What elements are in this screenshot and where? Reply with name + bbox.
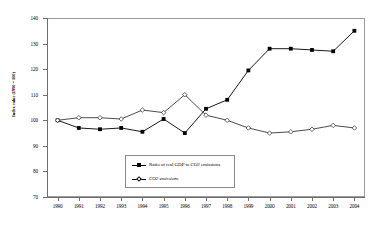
y-tick-label-130: 130 (31, 41, 38, 47)
legend-marker-filled-square-icon (132, 162, 146, 169)
y-tick-110 (43, 95, 48, 96)
legend-label-gdp-ratio: Ratio of real GDP to CO2 emissions (149, 162, 220, 168)
x-tick-1998 (227, 197, 228, 201)
legend-item-gdp-ratio: Ratio of real GDP to CO2 emissions (132, 160, 220, 170)
y-tick-label-140: 140 (31, 15, 38, 21)
x-tick-1991 (79, 197, 80, 201)
y-tick-label-120: 120 (31, 66, 38, 72)
y-tick-label-70: 70 (33, 194, 38, 200)
x-tick-2004 (354, 197, 355, 201)
x-tick-1992 (100, 197, 101, 201)
x-tick-1996 (185, 197, 186, 201)
chart-legend: Ratio of real GDP to CO2 emissions CO2 e… (125, 155, 235, 188)
y-tick-90 (43, 146, 48, 147)
y-tick-label-90: 90 (33, 143, 38, 149)
y-axis-line (47, 18, 48, 197)
x-tick-1997 (206, 197, 207, 201)
y-tick-80 (43, 171, 48, 172)
y-tick-120 (43, 69, 48, 70)
x-tick-2002 (312, 197, 313, 201)
y-tick-70 (43, 197, 48, 198)
x-tick-2001 (291, 197, 292, 201)
y-tick-100 (43, 120, 48, 121)
x-tick-2003 (333, 197, 334, 201)
x-tick-1999 (248, 197, 249, 201)
y-tick-130 (43, 44, 48, 45)
y-tick-label-110: 110 (31, 92, 38, 98)
x-tick-1994 (142, 197, 143, 201)
y-tick-140 (43, 18, 48, 19)
y-tick-label-80: 80 (33, 168, 38, 174)
x-tick-1993 (121, 197, 122, 201)
x-tick-1995 (164, 197, 165, 201)
y-axis-title: Index value (1990 = 100) (11, 53, 16, 137)
legend-item-co2: CO2 emissions (132, 174, 179, 184)
chart-figure: 708090100110120130140 199019911992199319… (0, 0, 390, 231)
x-tick-1990 (58, 197, 59, 201)
y-tick-label-100: 100 (31, 117, 38, 123)
x-tick-2000 (270, 197, 271, 201)
x-tick-label-2004: 2004 (341, 203, 367, 209)
legend-label-co2: CO2 emissions (149, 176, 179, 182)
legend-marker-open-diamond-icon (132, 176, 146, 183)
